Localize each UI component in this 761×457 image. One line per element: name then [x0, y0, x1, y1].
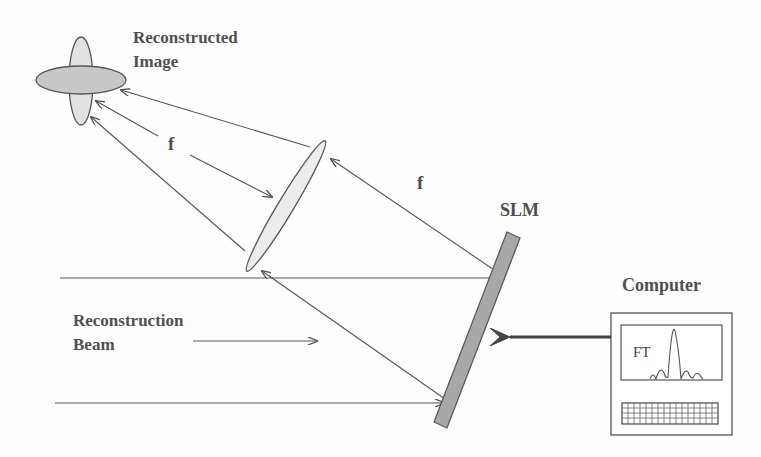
ray-slm-to-lens: [262, 271, 445, 399]
optical-diagram: f f SLM Reconstructed Image Reconstructi…: [0, 0, 761, 457]
reconstructed-image-label-line1: Reconstructed: [133, 28, 238, 47]
focal-length-right-label: f: [417, 172, 424, 193]
keyboard: [622, 403, 718, 424]
reconstructed-image: [36, 37, 126, 125]
reconstruction-beam-label-line1: Reconstruction: [73, 311, 184, 330]
focal-length-left-label: f: [168, 133, 175, 154]
fourier-transform-label: FT: [633, 344, 651, 360]
computer-label: Computer: [622, 275, 701, 295]
reconstructed-image-label-line2: Image: [133, 52, 179, 71]
slm-label: SLM: [500, 200, 539, 220]
slm-bar: [434, 232, 520, 428]
computer: FT: [611, 313, 732, 435]
lens: [240, 137, 332, 276]
reconstruction-beam: [55, 278, 503, 403]
image-horizontal-ellipse: [36, 66, 126, 94]
focal-length-left-arrow: [96, 101, 272, 197]
reconstruction-beam-label-line2: Beam: [73, 335, 115, 354]
